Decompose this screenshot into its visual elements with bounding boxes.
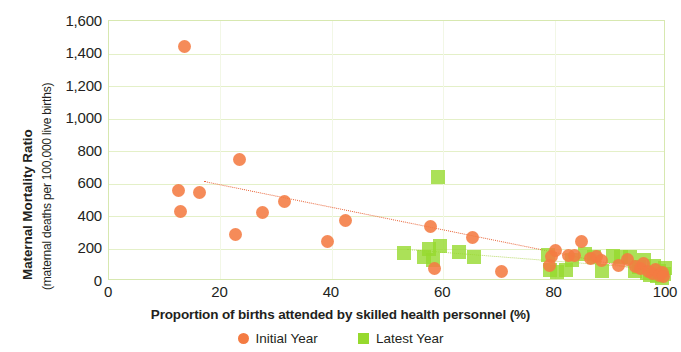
data-point-initial-year <box>178 40 191 53</box>
gridline-y-600 <box>109 184 664 185</box>
y-tick-label-200: 200 <box>48 240 102 255</box>
gridline-y-1200 <box>109 86 664 87</box>
data-point-initial-year <box>256 206 269 219</box>
data-point-initial-year <box>229 228 242 241</box>
data-point-latest-year <box>452 245 466 259</box>
legend-circle-icon <box>238 333 249 344</box>
y-tick-label-0: 0 <box>48 273 102 288</box>
data-point-initial-year <box>424 220 437 233</box>
legend-item-latest-year[interactable]: Latest Year <box>358 331 444 346</box>
data-point-latest-year <box>467 250 481 264</box>
y-tick-label-600: 600 <box>48 175 102 190</box>
legend-label: Latest Year <box>376 331 444 346</box>
gridline-x-80 <box>555 21 556 279</box>
data-point-initial-year <box>233 153 246 166</box>
data-point-initial-year <box>549 244 562 257</box>
y-tick-label-400: 400 <box>48 208 102 223</box>
data-point-initial-year <box>321 235 334 248</box>
x-tick-label-40: 40 <box>323 284 339 299</box>
y-tick-label-1400: 1,400 <box>48 45 102 60</box>
data-point-latest-year <box>397 246 411 260</box>
x-tick-label-20: 20 <box>211 284 227 299</box>
data-point-initial-year <box>575 235 588 248</box>
y-axis-title-group: Maternal Mortality Ratio (maternal death… <box>0 0 52 300</box>
y-tick-label-1200: 1,200 <box>48 78 102 93</box>
chart-legend: Initial YearLatest Year <box>0 331 681 346</box>
x-tick-label-0: 0 <box>104 284 112 299</box>
gridline-y-400 <box>109 216 664 217</box>
data-point-latest-year <box>431 170 445 184</box>
y-tick-label-1600: 1,600 <box>48 13 102 28</box>
x-tick-label-60: 60 <box>434 284 450 299</box>
y-axis-title-main: Maternal Mortality Ratio <box>21 129 35 280</box>
y-axis-tick-labels: 02004006008001,0001,2001,4001,600 <box>48 0 102 300</box>
legend-square-icon <box>358 333 369 344</box>
data-point-initial-year <box>174 205 187 218</box>
gridline-y-1400 <box>109 54 664 55</box>
x-tick-label-80: 80 <box>545 284 561 299</box>
legend-label: Initial Year <box>256 331 318 346</box>
y-tick-label-800: 800 <box>48 143 102 158</box>
data-point-initial-year <box>193 186 206 199</box>
data-point-initial-year <box>568 249 581 262</box>
x-axis-title: Proportion of births attended by skilled… <box>0 307 681 322</box>
data-point-initial-year <box>278 195 291 208</box>
data-point-initial-year <box>466 231 479 244</box>
data-point-latest-year <box>433 239 447 253</box>
plot-area <box>108 20 665 280</box>
scatter-chart-figure: Maternal Mortality Ratio (maternal death… <box>0 0 681 352</box>
y-tick-label-1000: 1,000 <box>48 110 102 125</box>
data-point-initial-year <box>428 262 441 275</box>
legend-item-initial-year[interactable]: Initial Year <box>238 331 318 346</box>
x-tick-label-100: 100 <box>653 284 677 299</box>
gridline-x-20 <box>220 21 221 279</box>
data-point-initial-year <box>172 184 185 197</box>
data-point-initial-year <box>339 214 352 227</box>
gridline-y-1000 <box>109 119 664 120</box>
data-point-initial-year <box>495 265 508 278</box>
gridline-y-800 <box>109 151 664 152</box>
